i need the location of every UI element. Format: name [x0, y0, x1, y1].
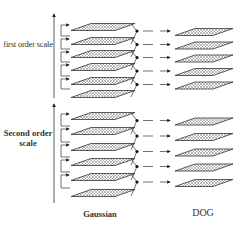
dog-label: DOG	[183, 208, 223, 218]
subtract-node-icon	[135, 134, 138, 137]
dog-layer	[175, 134, 233, 141]
feedback-arrow	[61, 160, 70, 172]
feedback-arrow	[61, 129, 70, 142]
dog-layer	[175, 82, 233, 89]
dog-layer	[175, 149, 233, 156]
subtract-node-icon	[135, 119, 138, 122]
gaussian-label: Gaussian	[70, 209, 130, 219]
gaussian-layer	[71, 38, 135, 45]
subtract-node-icon	[135, 180, 138, 183]
dog-layer	[175, 55, 233, 62]
gaussian-layer	[71, 91, 135, 98]
gaussian-layer	[71, 78, 135, 85]
feedback-arrow	[61, 175, 70, 188]
feedback-arrow	[61, 25, 70, 36]
first-order-scale-label: first order scale	[0, 39, 56, 49]
subtract-node-icon	[135, 56, 138, 59]
feedback-arrow	[61, 65, 70, 76]
gaussian-layer	[71, 128, 135, 135]
subtract-node-icon	[135, 83, 138, 86]
subtract-node-icon	[135, 150, 138, 153]
gaussian-layer	[71, 174, 135, 181]
feedback-arrow	[61, 52, 70, 62]
feedback-arrow	[61, 114, 70, 126]
subtract-node-icon	[135, 29, 138, 32]
difference-connector	[131, 113, 137, 134]
second-order-scale-label: Second order scale	[2, 128, 54, 148]
subtract-node-icon	[135, 69, 138, 72]
dog-layer	[175, 118, 233, 125]
gaussian-layer	[71, 190, 135, 197]
subtract-node-icon	[135, 43, 138, 46]
feedback-arrow	[61, 39, 70, 49]
feedback-arrow	[61, 145, 70, 157]
gaussian-layer	[71, 159, 135, 166]
gaussian-layer	[71, 51, 135, 58]
feedback-arrow	[61, 79, 70, 89]
dog-layer	[175, 42, 233, 49]
gaussian-layer	[71, 113, 135, 120]
subtract-node-icon	[135, 165, 138, 168]
dog-layer	[175, 180, 233, 187]
diagram-canvas	[0, 0, 243, 230]
gaussian-layer	[71, 64, 135, 71]
dog-layer	[175, 69, 233, 76]
dog-layer	[175, 164, 233, 171]
dog-layer	[175, 29, 233, 36]
gaussian-layer	[71, 24, 135, 31]
gaussian-layer	[71, 144, 135, 151]
difference-connector	[131, 78, 137, 97]
